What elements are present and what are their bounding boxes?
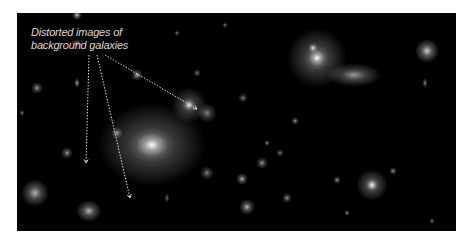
arrow-line <box>86 55 89 163</box>
annotation-caption: Distorted images of background galaxies <box>31 26 128 52</box>
arrow-line <box>97 55 130 198</box>
caption-line-1: Distorted images of <box>31 26 128 39</box>
arrow-line <box>105 55 197 109</box>
caption-line-2: background galaxies <box>31 39 128 52</box>
galaxy-cluster-image: Distorted images of background galaxies <box>17 13 456 231</box>
